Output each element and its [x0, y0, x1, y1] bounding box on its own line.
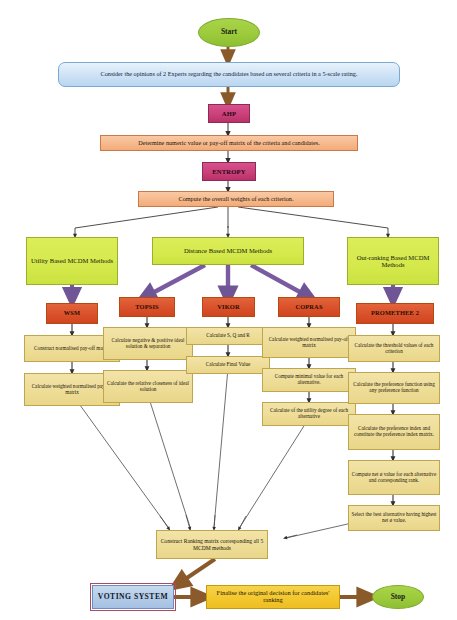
- promethee-step-1-label: Calculate the threshold values of each c…: [349, 343, 439, 354]
- copras-step-1-label: Calculate weighted normalised pay-off ma…: [263, 337, 355, 348]
- ranking-matrix-box: Construct Ranking matrix corresponding a…: [156, 530, 268, 559]
- entropy-label: ENTROPY: [210, 168, 248, 175]
- stop-terminator: Stop: [372, 585, 424, 609]
- finalise-decision-box: Finalise the original decision for candi…: [206, 585, 340, 609]
- stop-label: Stop: [389, 593, 408, 601]
- copras-step-2: Compute minimal value for each alternati…: [262, 368, 356, 392]
- method-promethee2: PROMETHEE 2: [356, 303, 434, 324]
- entropy-box: ENTROPY: [202, 162, 256, 181]
- vikor-step-1-label: Calculate S, Q and R: [204, 333, 252, 339]
- ahp-label: AHP: [220, 110, 239, 117]
- method-topsis: TOPSIS: [119, 297, 175, 317]
- vikor-step-1: Calculate S, Q and R: [186, 327, 270, 345]
- ahp-box: AHP: [208, 104, 250, 123]
- finalise-decision-label: Finalise the original decision for candi…: [207, 590, 339, 604]
- promethee-step-3-label: Calculate the preference index and const…: [349, 426, 439, 437]
- method-wsm-label: WSM: [62, 310, 82, 317]
- compute-weights-box: Compute the overall weights of each crit…: [138, 191, 334, 207]
- category-utility-based: Utility Based MCDM Methods: [26, 237, 118, 285]
- promethee-step-5: Select the best alternative having highe…: [348, 505, 440, 531]
- category-distance-based: Distance Based MCDM Methods: [152, 237, 304, 265]
- start-terminator: Start: [198, 18, 260, 47]
- compute-weights-label: Compute the overall weights of each crit…: [177, 196, 296, 203]
- category-outranking-based-label: Out-ranking Based MCDM Methods: [348, 254, 438, 268]
- topsis-step-2: Calculate the relative closeness of idea…: [103, 370, 193, 403]
- vikor-step-2: Calculate Final Value: [186, 356, 270, 374]
- ranking-matrix-label: Construct Ranking matrix corresponding a…: [157, 538, 267, 550]
- consider-opinions-box: Consider the opinions of 2 Experts regar…: [58, 62, 400, 87]
- determine-payoff-label: Determine numeric value or pay-off matri…: [136, 140, 321, 147]
- category-distance-based-label: Distance Based MCDM Methods: [182, 247, 274, 254]
- voting-system-box: VOTING SYSTEM: [92, 585, 174, 609]
- promethee-step-4-label: Compute net ø value for each alternative…: [349, 472, 439, 483]
- promethee-step-2: Calculate the preference function using …: [348, 372, 440, 404]
- flowchart-canvas: Start Consider the opinions of 2 Experts…: [0, 0, 457, 620]
- wsm-step-1-label: Construct normalised pay-off matrix: [32, 346, 112, 352]
- copras-step-2-label: Compute minimal value for each alternati…: [263, 374, 355, 385]
- topsis-step-2-label: Calculate the relative closeness of idea…: [104, 381, 192, 392]
- method-copras: COPRAS: [278, 297, 340, 317]
- start-label: Start: [219, 28, 239, 36]
- topsis-step-1-label: Calculate negative & positive ideal solu…: [104, 338, 192, 349]
- copras-step-3-label: Calculate of the utility degree of each …: [263, 408, 355, 419]
- promethee-step-2-label: Calculate the preference function using …: [349, 382, 439, 393]
- determine-payoff-box: Determine numeric value or pay-off matri…: [100, 135, 358, 151]
- promethee-step-3: Calculate the preference index and const…: [348, 414, 440, 450]
- method-vikor: VIKOR: [202, 297, 255, 317]
- promethee-step-4: Compute net ø value for each alternative…: [348, 460, 440, 495]
- method-copras-label: COPRAS: [293, 304, 324, 311]
- copras-step-3: Calculate of the utility degree of each …: [262, 402, 356, 426]
- copras-step-1: Calculate weighted normalised pay-off ma…: [262, 327, 356, 358]
- category-utility-based-label: Utility Based MCDM Methods: [29, 257, 115, 264]
- promethee-step-1: Calculate the threshold values of each c…: [348, 335, 440, 362]
- promethee-step-5-label: Select the best alternative having highe…: [349, 512, 439, 523]
- method-topsis-label: TOPSIS: [133, 304, 161, 311]
- method-wsm: WSM: [46, 303, 98, 324]
- voting-system-label: VOTING SYSTEM: [96, 593, 170, 601]
- topsis-step-1: Calculate negative & positive ideal solu…: [103, 327, 193, 360]
- consider-opinions-label: Consider the opinions of 2 Experts regar…: [99, 71, 360, 78]
- method-promethee2-label: PROMETHEE 2: [369, 310, 421, 317]
- method-vikor-label: VIKOR: [215, 304, 241, 311]
- vikor-step-2-label: Calculate Final Value: [204, 362, 253, 368]
- category-outranking-based: Out-ranking Based MCDM Methods: [347, 237, 439, 285]
